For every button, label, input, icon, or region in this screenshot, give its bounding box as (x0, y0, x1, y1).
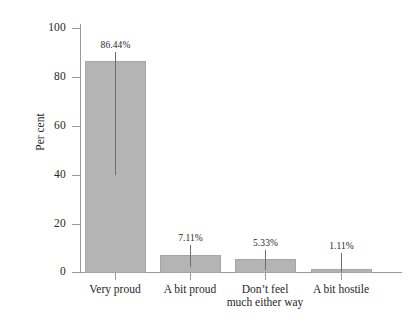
y-tick-label-80: 80 (28, 70, 66, 82)
x-tick-dont-feel-much-either-way (265, 273, 266, 280)
leader-line-a-bit-hostile (341, 253, 342, 272)
y-tick-label-100: 100 (28, 21, 66, 33)
x-tick-very-proud (115, 273, 116, 280)
y-tick-label-20: 20 (28, 217, 66, 229)
y-tick-0 (72, 272, 81, 273)
y-tick-label-60: 60 (28, 119, 66, 131)
leader-line-a-bit-proud (190, 245, 191, 267)
x-tick-a-bit-proud (190, 273, 191, 280)
data-label-very-proud: 86.44% (85, 40, 146, 50)
y-axis-title: Per cent (34, 102, 46, 162)
bar-chart: Per cent 100 80 60 40 20 0 86.44% 7.11% … (0, 0, 410, 323)
leader-line-very-proud (115, 52, 116, 175)
y-tick-40 (72, 175, 81, 176)
y-tick-label-0: 0 (28, 265, 66, 277)
x-axis-label-a-bit-hostile: A bit hostile (296, 283, 386, 296)
x-axis-label-a-bit-hostile-line-1: A bit hostile (296, 283, 386, 296)
data-label-a-bit-proud: 7.11% (160, 233, 221, 243)
y-tick-20 (72, 224, 81, 225)
leader-line-dont-feel-much-either-way (265, 250, 266, 270)
x-axis-label-dont-feel-much-either-way-line-2: much either way (215, 296, 315, 309)
y-axis-line (80, 24, 81, 273)
data-label-a-bit-hostile: 1.11% (311, 241, 372, 251)
y-tick-80 (72, 77, 81, 78)
x-tick-a-bit-hostile (341, 273, 342, 280)
y-tick-100 (72, 28, 81, 29)
data-label-dont-feel-much-either-way: 5.33% (235, 238, 296, 248)
y-tick-60 (72, 126, 81, 127)
chart-page: Per cent 100 80 60 40 20 0 86.44% 7.11% … (0, 0, 410, 323)
y-tick-label-40: 40 (28, 168, 66, 180)
